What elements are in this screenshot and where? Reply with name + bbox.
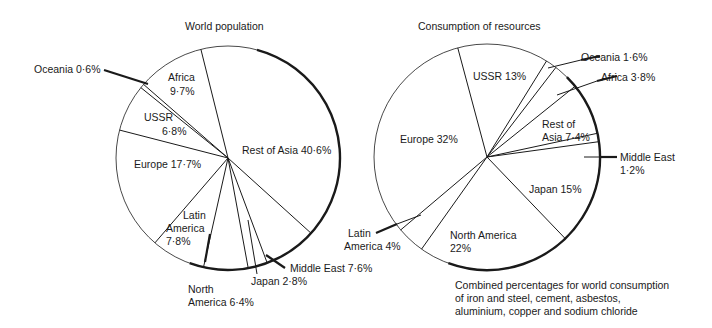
label-latin-america-consumption-1: Latin (348, 227, 371, 240)
label-japan-population: Japan 2·8% (251, 275, 307, 288)
label-latin-america-consumption-2: America 4% (344, 240, 401, 253)
label-rest-of-asia-population: Rest of Asia 40·6% (242, 144, 331, 157)
label-middle-east-population: Middle East 7·6% (290, 262, 372, 275)
label-rest-of-asia-consumption-2: Asia 7·4% (542, 131, 590, 144)
caption-line-3: aluminium, copper and sodium chloride (455, 305, 669, 318)
caption-line-1: Combined percentages for world consumpti… (455, 279, 669, 292)
label-north-america-population-2: America 6·4% (188, 296, 254, 309)
label-north-america-consumption-2: 22% (450, 242, 471, 255)
label-north-america-population-1: North (188, 283, 214, 296)
label-africa-population-name: Africa (168, 71, 195, 84)
label-ussr-consumption: USSR 13% (473, 70, 526, 83)
world-population-title: World population (185, 20, 264, 32)
label-north-america-consumption-1: North America (450, 229, 517, 242)
label-latin-america-population-2: America (166, 222, 205, 235)
consumption-title: Consumption of resources (418, 20, 541, 32)
caption-line-2: of iron and steel, cement, asbestos, (455, 292, 669, 305)
label-japan-consumption: Japan 15% (529, 183, 582, 196)
label-europe-consumption: Europe 32% (400, 133, 458, 146)
consumption-caption: Combined percentages for world consumpti… (455, 279, 669, 318)
label-ussr-population-value: 6·8% (162, 125, 187, 138)
figure: World population Oceania 0·6% Africa 9·7… (0, 0, 712, 328)
label-oceania-consumption: Oceania 1·6% (581, 51, 648, 64)
label-rest-of-asia-consumption-1: Rest of (542, 118, 575, 131)
label-middle-east-consumption-2: 1·2% (620, 164, 645, 177)
label-africa-consumption: Africa 3·8% (601, 71, 655, 84)
label-ussr-population-name: USSR (144, 111, 173, 124)
label-latin-america-population-1: Latin (183, 209, 206, 222)
label-middle-east-consumption-1: Middle East (620, 151, 675, 164)
label-oceania-population: Oceania 0·6% (34, 63, 101, 76)
label-africa-population-value: 9·7% (170, 85, 195, 98)
label-europe-population: Europe 17·7% (134, 158, 201, 171)
label-latin-america-population-3: 7·8% (166, 235, 191, 248)
